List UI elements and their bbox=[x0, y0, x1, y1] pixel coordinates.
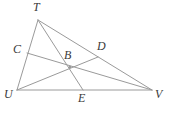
segment-layer bbox=[17, 20, 152, 90]
vertex-label-U: U bbox=[4, 88, 13, 100]
segment-TE bbox=[38, 20, 83, 90]
vertex-label-D: D bbox=[97, 40, 106, 52]
vertex-label-B: B bbox=[64, 49, 71, 61]
vertex-label-T: T bbox=[33, 1, 40, 13]
segment-TV bbox=[38, 20, 152, 90]
geometry-canvas bbox=[0, 0, 171, 113]
geometry-diagram: TUVCDEB bbox=[0, 0, 171, 113]
point-layer bbox=[69, 66, 72, 69]
point-marker-B bbox=[69, 66, 72, 69]
vertex-label-C: C bbox=[13, 43, 21, 55]
segment-VC bbox=[27, 53, 152, 90]
vertex-label-E: E bbox=[78, 92, 85, 104]
vertex-label-V: V bbox=[155, 88, 162, 100]
